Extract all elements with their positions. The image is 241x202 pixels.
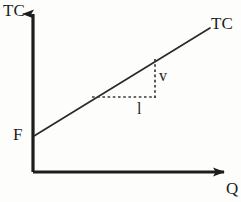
- total-cost-curve-label: TC: [211, 15, 233, 32]
- chart-canvas: [0, 0, 241, 202]
- y-axis-label: TC: [3, 2, 25, 19]
- slope-rise-label: v: [159, 68, 167, 84]
- fixed-cost-intercept-label: F: [13, 126, 23, 143]
- x-axis-label: Q: [226, 180, 238, 197]
- total-cost-line: [34, 28, 210, 136]
- total-cost-chart: TC Q TC F l v: [0, 0, 241, 202]
- slope-run-label: l: [137, 101, 142, 117]
